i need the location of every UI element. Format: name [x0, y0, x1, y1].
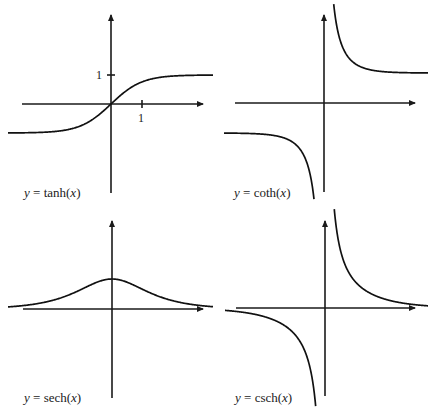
- tanh-annotation: y = tanh(x): [22, 185, 80, 200]
- annotation-eq: =: [241, 390, 255, 405]
- sech-panel: [8, 221, 213, 398]
- sech-annotation: y = sech(x): [22, 390, 81, 405]
- csch-annotation: y = csch(x): [233, 390, 292, 405]
- coth-curve-right-branch: [334, 4, 428, 73]
- sech-curve: [8, 279, 213, 307]
- hyperbolic-functions-figure: 1 1 y = tanh(x) y = coth(x) y = sech(x) …: [0, 0, 436, 419]
- coth-annotation: y = coth(x): [232, 185, 290, 200]
- annotation-eq: =: [240, 185, 254, 200]
- annotation-fn: sech: [44, 390, 68, 405]
- annotation-eq: =: [30, 185, 44, 200]
- annotation-eq: =: [30, 390, 44, 405]
- tanh-x-tick-label: 1: [138, 111, 144, 125]
- tanh-panel: [8, 15, 213, 193]
- coth-panel: [224, 4, 428, 199]
- tanh-y-tick-label: 1: [96, 68, 102, 82]
- annotation-fn: csch: [255, 390, 279, 405]
- csch-curve-right-branch: [334, 209, 428, 306]
- csch-panel: [225, 209, 428, 406]
- annotation-fn: coth: [254, 185, 277, 200]
- annotation-fn: tanh: [44, 185, 67, 200]
